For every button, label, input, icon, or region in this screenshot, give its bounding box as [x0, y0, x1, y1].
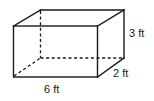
top-right-depth-edge [98, 10, 125, 26]
top-left-depth-edge [14, 10, 41, 26]
width-label: 2 ft [113, 68, 128, 79]
height-label: 3 ft [129, 28, 144, 39]
front-face [14, 26, 98, 77]
length-label: 6 ft [44, 84, 59, 95]
rectangular-prism [0, 0, 154, 101]
hidden-bottom-depth-edge [14, 58, 41, 76]
